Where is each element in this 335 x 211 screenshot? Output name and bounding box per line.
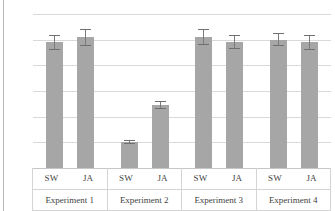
- subcategory-label-sw: SW: [108, 168, 145, 189]
- error-bar-cap-upper: [229, 35, 240, 36]
- subcategory-label-sw: SW: [182, 168, 219, 189]
- error-bar-cap-upper: [198, 29, 209, 30]
- error-bar: [152, 101, 169, 109]
- bar: [46, 42, 63, 168]
- error-bar: [301, 35, 318, 50]
- plot-area: 0123456: [33, 14, 331, 168]
- error-bar: [270, 33, 287, 46]
- bar: [301, 42, 318, 168]
- bar-chart: 0123456 SWJAExperiment 1SWJAExperiment 2…: [0, 0, 335, 211]
- error-bar-stem: [203, 29, 204, 44]
- error-bar-cap-upper: [124, 140, 135, 141]
- subcategory-label-ja: JA: [293, 168, 330, 189]
- error-bar-cap-upper: [49, 35, 60, 36]
- bar: [270, 40, 287, 168]
- error-bar-stem: [234, 35, 235, 49]
- subcategory-label-sw: SW: [257, 168, 294, 189]
- error-bar-cap-lower: [304, 49, 315, 50]
- bar: [226, 42, 243, 168]
- group-label: Experiment 1: [33, 189, 107, 211]
- category-group: SWJAExperiment 1: [32, 168, 108, 211]
- error-bar-cap-lower: [80, 45, 91, 46]
- category-group: SWJAExperiment 2: [107, 168, 183, 211]
- error-bar: [226, 35, 243, 49]
- category-axis: SWJAExperiment 1SWJAExperiment 2SWJAExpe…: [33, 168, 331, 211]
- error-bar-cap-lower: [273, 45, 284, 46]
- error-bar-stem: [54, 35, 55, 50]
- bar: [152, 105, 169, 168]
- error-bar-stem: [309, 35, 310, 50]
- error-bar-cap-upper: [304, 35, 315, 36]
- error-bar: [46, 35, 63, 50]
- error-bar: [121, 140, 138, 144]
- group-label: Experiment 2: [108, 189, 182, 211]
- category-group: SWJAExperiment 4: [256, 168, 332, 211]
- gridline-6: [33, 14, 331, 15]
- subcategory-label-sw: SW: [33, 168, 70, 189]
- category-axis-bottom-border: [33, 210, 331, 211]
- bar: [121, 142, 138, 168]
- error-bar-cap-lower: [49, 49, 60, 50]
- error-bar-cap-upper: [273, 33, 284, 34]
- error-bar-cap-lower: [229, 48, 240, 49]
- bar: [195, 37, 212, 168]
- error-bar: [195, 29, 212, 44]
- error-bar-cap-lower: [198, 44, 209, 45]
- subcategory-label-ja: JA: [219, 168, 256, 189]
- error-bar-stem: [85, 29, 86, 46]
- error-bar-cap-upper: [80, 29, 91, 30]
- subcategory-label-ja: JA: [144, 168, 181, 189]
- error-bar: [77, 29, 94, 46]
- error-bar-cap-lower: [124, 143, 135, 144]
- subcategory-label-ja: JA: [70, 168, 107, 189]
- group-label: Experiment 3: [182, 189, 256, 211]
- error-bar-cap-upper: [155, 101, 166, 102]
- group-label: Experiment 4: [257, 189, 331, 211]
- category-group: SWJAExperiment 3: [181, 168, 257, 211]
- bar: [77, 37, 94, 168]
- error-bar-cap-lower: [155, 108, 166, 109]
